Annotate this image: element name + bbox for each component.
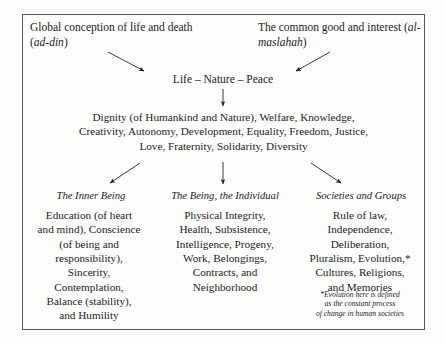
individual-line-2: Health, Subsistence, [153, 222, 297, 236]
column-header-the-individual: The Being, the Individual [154, 190, 296, 203]
figure-container: Global conception of life and death (ad-… [0, 0, 446, 344]
inner-being-line-1: Education (of heart [24, 208, 154, 222]
inner-being-line-4: responsibility), [24, 251, 154, 265]
column-header-societies-and-groups: Societies and Groups [298, 190, 424, 203]
footnote-evolution-definition: *Evolution here is defined as the consta… [296, 290, 424, 318]
node-dignity-values: Dignity (of Humankind and Nature), Welfa… [32, 110, 415, 153]
inner-being-line-5: Sincerity, [24, 265, 154, 279]
societies-line-3: Deliberation, [294, 237, 426, 251]
dignity-line-3: Love, Fraternity, Solidarity, Diversity [32, 139, 415, 153]
concept-common-good-text: The common good and interest ( [258, 21, 408, 33]
societies-line-1: Rule of law, [294, 208, 426, 222]
concept-common-good: The common good and interest (al-maslaha… [258, 20, 426, 50]
column-body-inner-being: Education (of heart and mind), Conscienc… [24, 208, 154, 323]
concept-global-conception-term: ad-din [34, 36, 64, 48]
footnote-line-3: of change in human societies [296, 309, 424, 318]
inner-being-line-3: (of being and [24, 237, 154, 251]
individual-line-4: Work, Belongings, [153, 251, 297, 265]
inner-being-line-8: and Humility [24, 308, 154, 322]
column-header-inner-being: The Inner Being [30, 190, 152, 203]
footnote-line-2: as the constant process [296, 299, 424, 308]
societies-line-4: Pluralism, Evolution,* [294, 251, 426, 265]
societies-line-5: Cultures, Religions, [294, 265, 426, 279]
individual-line-1: Physical Integrity, [153, 208, 297, 222]
footnote-line-1: *Evolution here is defined [296, 290, 424, 299]
column-body-the-individual: Physical Integrity, Health, Subsistence,… [153, 208, 297, 294]
inner-being-line-7: Balance (stability), [24, 294, 154, 308]
individual-line-5: Contracts, and [153, 265, 297, 279]
individual-line-6: Neighborhood [153, 280, 297, 294]
individual-line-3: Intelligence, Progeny, [153, 237, 297, 251]
node-life-nature-peace: Life – Nature – Peace [133, 73, 313, 87]
dignity-line-2: Creativity, Autonomy, Development, Equal… [32, 124, 415, 138]
concept-common-good-tail: ) [303, 36, 307, 48]
concept-global-conception: Global conception of life and death (ad-… [30, 20, 205, 50]
concept-global-conception-tail: ) [64, 36, 68, 48]
inner-being-line-2: and mind), Conscience [24, 222, 154, 236]
column-body-societies-and-groups: Rule of law, Independence, Deliberation,… [294, 208, 426, 294]
societies-line-2: Independence, [294, 222, 426, 236]
inner-being-line-6: Contemplation, [24, 280, 154, 294]
dignity-line-1: Dignity (of Humankind and Nature), Welfa… [32, 110, 415, 124]
